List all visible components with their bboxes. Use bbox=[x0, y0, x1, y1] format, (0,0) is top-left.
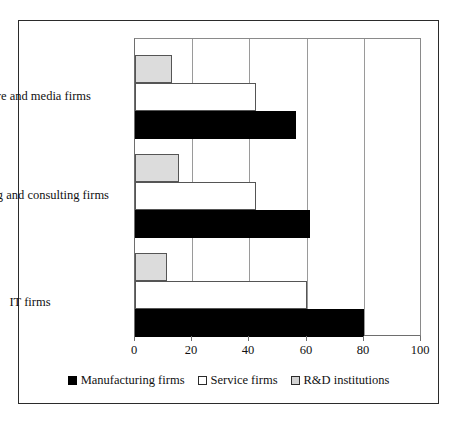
xaxis-label-100: 100 bbox=[400, 343, 440, 357]
chart-frame: Culture and media firms Marketing and co… bbox=[18, 20, 439, 404]
gridline-80 bbox=[364, 39, 365, 335]
gridline-60 bbox=[307, 39, 308, 335]
xaxis-tick-60 bbox=[306, 336, 307, 341]
xaxis-label-60: 60 bbox=[286, 343, 326, 357]
bar-marketing-rd-institutions[interactable] bbox=[135, 154, 179, 182]
bar-marketing-service-firms[interactable] bbox=[135, 182, 256, 210]
category-label-marketing-and-consulting-firms: Marketing and consulting firms bbox=[0, 188, 120, 203]
xaxis-tick-20 bbox=[191, 336, 192, 341]
xaxis-label-80: 80 bbox=[343, 343, 383, 357]
legend-label-manufacturing-firms: Manufacturing firms bbox=[81, 373, 185, 388]
bar-it-rd-institutions[interactable] bbox=[135, 253, 167, 281]
category-label-marketing-text: Marketing and consulting firms bbox=[0, 188, 109, 202]
chart-legend: Manufacturing firms Service firms R&D in… bbox=[19, 373, 438, 388]
category-label-culture-text: Culture and media firms bbox=[0, 89, 91, 103]
bar-it-service-firms[interactable] bbox=[135, 281, 307, 309]
legend-item-rd-institutions[interactable]: R&D institutions bbox=[291, 373, 390, 388]
legend-label-rd-institutions: R&D institutions bbox=[304, 373, 390, 388]
xaxis-label-20: 20 bbox=[171, 343, 211, 357]
bar-culture-rd-institutions[interactable] bbox=[135, 55, 172, 83]
hollow-square-icon bbox=[198, 376, 207, 385]
xaxis-label-0: 0 bbox=[114, 343, 154, 357]
xaxis-label-40: 40 bbox=[228, 343, 268, 357]
legend-item-service-firms[interactable]: Service firms bbox=[198, 373, 278, 388]
plot-area bbox=[134, 38, 421, 336]
bar-culture-service-firms[interactable] bbox=[135, 83, 256, 111]
bar-culture-manufacturing-firms[interactable] bbox=[135, 111, 296, 139]
plot-wrapper: Culture and media firms Marketing and co… bbox=[19, 21, 438, 403]
bar-it-manufacturing-firms[interactable] bbox=[135, 309, 364, 337]
xaxis-tick-80 bbox=[363, 336, 364, 341]
legend-label-service-firms: Service firms bbox=[211, 373, 278, 388]
grey-square-icon bbox=[291, 376, 300, 385]
category-label-it-text: IT firms bbox=[9, 295, 50, 309]
xaxis-tick-0 bbox=[134, 336, 135, 341]
filled-black-square-icon bbox=[68, 376, 77, 385]
legend-item-manufacturing-firms[interactable]: Manufacturing firms bbox=[68, 373, 185, 388]
category-label-culture-and-media-firms: Culture and media firms bbox=[0, 89, 120, 104]
xaxis-tick-40 bbox=[248, 336, 249, 341]
bar-marketing-manufacturing-firms[interactable] bbox=[135, 210, 310, 238]
xaxis-tick-100 bbox=[420, 336, 421, 341]
category-label-it-firms: IT firms bbox=[0, 295, 120, 310]
